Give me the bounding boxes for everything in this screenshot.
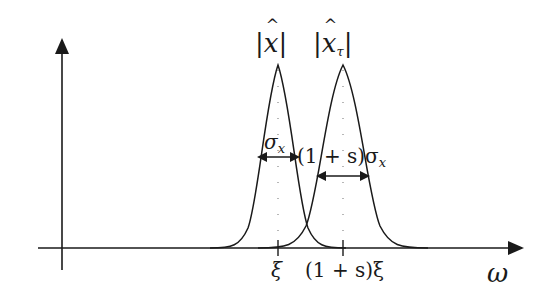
tau-subscript: τ: [336, 44, 343, 59]
abs-bar-right: |: [344, 28, 353, 58]
scaled-sigma-text: (1 + s)σ: [297, 144, 379, 168]
x-hat-symbol: x: [322, 30, 337, 56]
sigma-x-label: σx: [264, 132, 285, 155]
abs-bar-left: |: [313, 28, 322, 58]
xi-tick-label: ξ: [271, 260, 282, 280]
sigma-symbol: σ: [264, 130, 278, 154]
scaled-sigma-x-label: (1 + s)σx: [297, 146, 386, 169]
omega-axis-label: ω: [487, 260, 508, 286]
curve-label-x-hat-tau: |xτ|: [313, 30, 352, 58]
scaled-xi-tick-label: (1 + s)ξ: [305, 260, 384, 280]
abs-bar-right: |: [278, 28, 287, 58]
curve-label-x-hat: |x|: [255, 30, 287, 56]
abs-bar-left: |: [255, 28, 264, 58]
x-hat-symbol: x: [264, 30, 279, 56]
sigma-subscript: x: [379, 155, 386, 170]
sigma-subscript: x: [278, 141, 285, 156]
